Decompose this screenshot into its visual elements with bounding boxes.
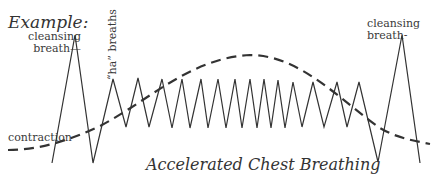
diagram-caption: Accelerated Chest Breathing	[146, 155, 381, 174]
breathing-line	[52, 35, 420, 163]
contraction-curve	[8, 55, 430, 150]
breathing-diagram	[0, 0, 434, 181]
